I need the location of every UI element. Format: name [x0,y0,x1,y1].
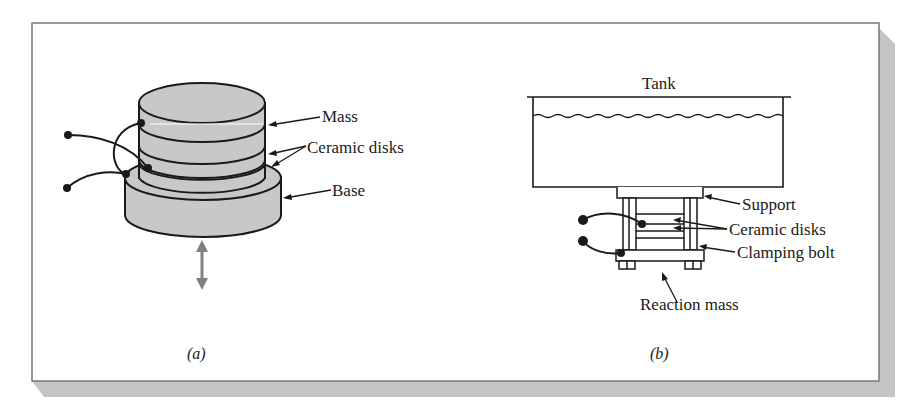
terminal-dot [122,170,130,178]
label-clamping-bolt: Clamping bolt [737,243,835,262]
label-support: Support [742,195,796,214]
caption-a: (a) [187,345,206,363]
terminal-dot [144,164,152,172]
panel-a-diagram [125,83,281,237]
label-tank: Tank [642,74,676,93]
label-mass: Mass [322,107,358,126]
label-base: Base [332,181,365,200]
label-reaction-mass: Reaction mass [640,295,739,314]
terminal-dot [64,131,72,139]
figure-frame: Mass Ceramic disks Base (a) Tank [0,0,918,412]
label-ceramic-disks-b: Ceramic disks [729,220,826,239]
terminal-dot [63,184,71,192]
terminal-dot [638,220,646,228]
label-ceramic-disks-a: Ceramic disks [307,138,404,157]
caption-b: (b) [650,345,669,363]
terminal-dot [137,119,145,127]
terminal-dot [578,215,588,225]
terminal-dot [578,236,588,246]
terminal-dot [617,249,625,257]
